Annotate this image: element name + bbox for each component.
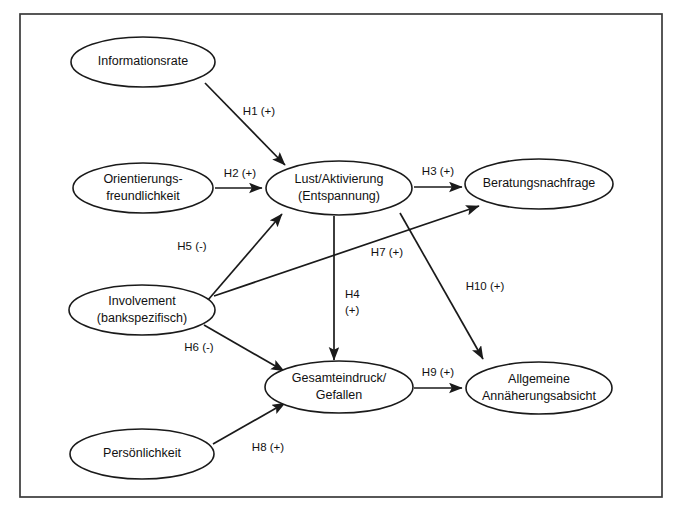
node-label-persoenlichkeit: Persönlichkeit: [103, 446, 181, 460]
nodes-layer: InformationsrateOrientierungs-freundlich…: [69, 37, 613, 479]
node-label-allgemeine-annaeherungsabsicht: Allgemeine: [508, 372, 570, 386]
node-orientierungsfreundlichkeit[interactable]: Orientierungs-freundlichkeit: [73, 163, 213, 213]
edge-label-h2: H2 (+): [224, 167, 256, 179]
edge-h5: [208, 214, 282, 300]
edge-h1: [205, 83, 285, 165]
edge-h8: [213, 403, 285, 444]
diagram-frame: [20, 14, 662, 497]
edge-label-h4: H4: [345, 288, 360, 300]
edge-label-h10: H10 (+): [466, 280, 505, 292]
node-persoenlichkeit[interactable]: Persönlichkeit: [70, 429, 214, 479]
node-label-beratungsnachfrage: Beratungsnachfrage: [483, 176, 596, 190]
edge-label-h8: H8 (+): [252, 441, 284, 453]
node-label-gesamteindruck-gefallen: Gesamteindruck/: [292, 371, 387, 385]
edge-label-h9: H9 (+): [422, 366, 454, 378]
edge-label2-h4: (+): [345, 304, 360, 316]
edge-h6: [204, 325, 284, 371]
node-label2-involvement: (bankspezifisch): [97, 311, 187, 325]
edge-label-h5: H5 (-): [177, 240, 207, 252]
edge-label-h6: H6 (-): [184, 341, 214, 353]
node-label-orientierungsfreundlichkeit: Orientierungs-: [103, 172, 182, 186]
node-label2-orientierungsfreundlichkeit: freundlichkeit: [106, 189, 180, 203]
node-ellipse-gesamteindruck-gefallen: [265, 361, 413, 413]
edge-label-h7: H7 (+): [371, 246, 403, 258]
node-lust-aktivierung[interactable]: Lust/Aktivierung(Entspannung): [266, 161, 412, 215]
edge-label-h3: H3 (+): [422, 165, 454, 177]
node-label2-gesamteindruck-gefallen: Gefallen: [316, 388, 363, 402]
node-label2-lust-aktivierung: (Entspannung): [298, 189, 380, 203]
node-ellipse-allgemeine-annaeherungsabsicht: [466, 362, 612, 414]
node-involvement[interactable]: Involvement(bankspezifisch): [69, 285, 215, 335]
path-diagram-canvas: InformationsrateOrientierungs-freundlich…: [0, 0, 679, 511]
node-beratungsnachfrage[interactable]: Beratungsnachfrage: [465, 159, 613, 209]
node-ellipse-orientierungsfreundlichkeit: [73, 163, 213, 213]
node-informationsrate[interactable]: Informationsrate: [71, 37, 215, 87]
node-ellipse-lust-aktivierung: [266, 161, 412, 215]
node-label-lust-aktivierung: Lust/Aktivierung: [295, 172, 384, 186]
node-gesamteindruck-gefallen[interactable]: Gesamteindruck/Gefallen: [265, 361, 413, 413]
node-label-informationsrate: Informationsrate: [98, 54, 188, 68]
edge-label-h1: H1 (+): [243, 105, 275, 117]
diagram-svg: InformationsrateOrientierungs-freundlich…: [0, 0, 679, 511]
node-ellipse-involvement: [69, 285, 215, 335]
node-label2-allgemeine-annaeherungsabsicht: Annäherungsabsicht: [482, 389, 596, 403]
node-label-involvement: Involvement: [108, 294, 176, 308]
node-allgemeine-annaeherungsabsicht[interactable]: AllgemeineAnnäherungsabsicht: [466, 362, 612, 414]
